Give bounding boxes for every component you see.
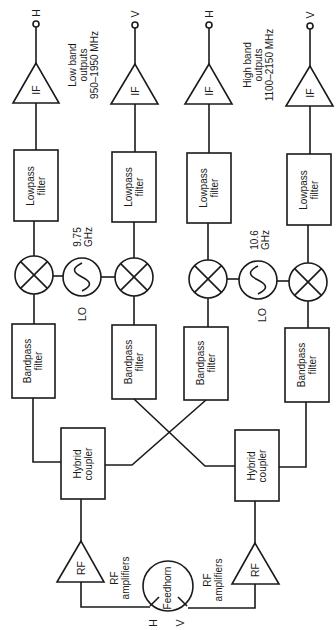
rf-amplifiers-label-left: RF amplifiers bbox=[109, 557, 131, 600]
lo1-freq: 9.75 bbox=[72, 227, 83, 247]
high-band-line2: outputs bbox=[253, 49, 264, 82]
hybrid-line1: Hybrid bbox=[246, 452, 257, 481]
lowpass-line2: filter bbox=[134, 177, 145, 197]
feedhorn-port-v-label: V bbox=[174, 619, 186, 626]
rf-amplifiers-line2: amplifiers bbox=[120, 557, 131, 600]
hybrid-line1: Hybrid bbox=[72, 450, 83, 479]
hybrid-line2: coupler bbox=[257, 449, 268, 482]
output-label-v1: V bbox=[129, 10, 141, 17]
bandpass-line1: Bandpass bbox=[195, 341, 206, 385]
local-oscillator-2: 10.6 GHz LO bbox=[239, 230, 277, 322]
rf-amplifiers-line1: RF bbox=[202, 573, 213, 586]
lowpass-filter-1: Lowpass filter bbox=[14, 150, 58, 256]
if-amplifier-4: IF bbox=[286, 66, 333, 154]
lo1-label: LO bbox=[76, 307, 88, 321]
bandpass-filter-2: Bandpass filter bbox=[112, 325, 156, 399]
lowpass-line2: filter bbox=[36, 176, 47, 196]
if-amplifier-3: IF bbox=[185, 64, 232, 153]
bandpass-filter-1: Bandpass filter bbox=[12, 324, 55, 398]
lowpass-line1: Lowpass bbox=[298, 170, 309, 209]
lo2-label: LO bbox=[256, 308, 268, 322]
lo2-freq: 10.6 bbox=[249, 230, 260, 250]
if-amp-label: IF bbox=[30, 85, 42, 94]
lo2-unit: GHz bbox=[260, 230, 271, 250]
lo1-frequency-label: 9.75 GHz bbox=[72, 227, 94, 247]
rf-amplifier-1: RF bbox=[57, 541, 150, 607]
bandpass-filter-3: Bandpass filter bbox=[184, 327, 228, 400]
output-port-col4: V bbox=[304, 11, 316, 66]
lowpass-line2: filter bbox=[209, 178, 220, 198]
rf-amplifiers-line1: RF bbox=[109, 571, 120, 584]
local-oscillator-1: 9.75 GHz LO bbox=[63, 227, 101, 321]
low-band-outputs-label: Low band outputs 950–1950 MHz bbox=[67, 31, 100, 99]
mixer-3 bbox=[189, 260, 227, 327]
bandpass-line2: filter bbox=[33, 351, 44, 371]
lowpass-line2: filter bbox=[309, 180, 320, 200]
rf-amp-label: RF bbox=[75, 561, 87, 575]
bandpass-filter-4: Bandpass filter bbox=[285, 328, 329, 402]
bandpass-line1: Bandpass bbox=[296, 343, 307, 387]
output-port-col2: V bbox=[129, 10, 141, 64]
high-band-outputs-label: High band outputs 1100–2150 MHz bbox=[242, 29, 275, 102]
if-amp-label: IF bbox=[304, 88, 316, 97]
high-band-line1: High band bbox=[242, 42, 253, 88]
lnb-block-diagram: H V H V Low band outputs 950–1950 MHz Hi… bbox=[0, 0, 336, 630]
mixer-2 bbox=[115, 258, 153, 325]
lowpass-line1: Lowpass bbox=[25, 166, 36, 205]
hybrid-coupler-2: Hybrid coupler bbox=[235, 430, 279, 543]
mixer-1 bbox=[15, 256, 53, 324]
rf-amplifiers-line2: amplifiers bbox=[213, 559, 224, 602]
rf-amplifiers-label-right: RF amplifiers bbox=[202, 559, 224, 602]
feedhorn: Feedhorn H V bbox=[143, 561, 193, 627]
bandpass-line2: filter bbox=[134, 352, 145, 372]
high-band-line3: 1100–2150 MHz bbox=[264, 29, 275, 102]
feedhorn-label: Feedhorn bbox=[162, 567, 173, 610]
low-band-line3: 950–1950 MHz bbox=[89, 31, 100, 99]
output-label-h2: H bbox=[203, 10, 215, 18]
bandpass-line1: Bandpass bbox=[22, 339, 33, 383]
low-band-line1: Low band bbox=[67, 43, 78, 86]
hybrid-line2: coupler bbox=[83, 447, 94, 480]
lowpass-line1: Lowpass bbox=[198, 168, 209, 207]
output-port-col1: H bbox=[30, 9, 42, 63]
lowpass-filter-4: Lowpass filter bbox=[287, 154, 331, 263]
low-band-line2: outputs bbox=[78, 49, 89, 82]
if-amplifier-2: IF bbox=[111, 64, 158, 152]
if-amplifier-1: IF bbox=[13, 63, 59, 150]
lowpass-line1: Lowpass bbox=[123, 167, 134, 206]
feedhorn-port-h-label: H bbox=[147, 619, 159, 627]
lowpass-filter-2: Lowpass filter bbox=[112, 152, 156, 258]
if-amp-label: IF bbox=[129, 86, 141, 95]
bandpass-line2: filter bbox=[307, 355, 318, 375]
rf-amp-label: RF bbox=[249, 563, 261, 577]
lowpass-filter-3: Lowpass filter bbox=[187, 153, 231, 260]
output-port-col3: H bbox=[203, 10, 215, 64]
lo2-frequency-label: 10.6 GHz bbox=[249, 230, 271, 250]
if-amp-label: IF bbox=[203, 86, 215, 95]
mixer-4 bbox=[289, 263, 327, 328]
hybrid-coupler-1: Hybrid coupler bbox=[61, 428, 105, 541]
output-label-v2: V bbox=[304, 11, 316, 18]
lo1-unit: GHz bbox=[83, 227, 94, 247]
bandpass-line2: filter bbox=[206, 353, 217, 373]
bandpass-line1: Bandpass bbox=[123, 340, 134, 384]
output-label-h1: H bbox=[30, 9, 42, 17]
